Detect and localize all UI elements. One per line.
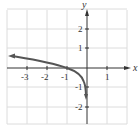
y-axis-arrow-icon (85, 9, 89, 16)
curve-arrow-left-icon (8, 54, 15, 59)
y-tick-label: -2 (75, 102, 83, 112)
x-tick-label: -3 (21, 72, 29, 82)
y-axis-label: y (81, 0, 87, 10)
x-tick-label: -1 (61, 72, 69, 82)
y-tick-label: 2 (78, 24, 83, 34)
x-tick-label: 1 (105, 72, 110, 82)
x-tick-label: -2 (41, 72, 49, 82)
y-tick-label: -1 (75, 82, 83, 92)
y-tick-label: 1 (78, 43, 83, 53)
x-axis-label: x (132, 62, 138, 73)
graph: x y -3 -2 -1 1 2 1 -1 -2 (0, 0, 139, 128)
